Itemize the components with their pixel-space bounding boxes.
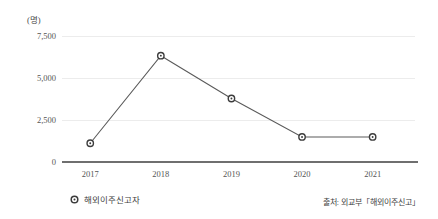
- data-point-marker: [158, 52, 164, 58]
- x-axis-baseline: [62, 161, 418, 163]
- y-axis-tick-label: 5,000: [37, 73, 56, 83]
- data-point-marker: [228, 95, 234, 101]
- data-point-marker: [87, 140, 93, 146]
- source-note: 출처: 외교부「해외이주신고」: [323, 196, 420, 207]
- x-axis-tick-label: 2021: [364, 169, 381, 179]
- x-axis-tick-label: 2017: [82, 169, 99, 179]
- y-axis-tick-label: 0: [52, 157, 56, 167]
- x-axis-tick-label: 2019: [223, 169, 240, 179]
- data-point-marker: [369, 134, 375, 140]
- plot-area: [62, 36, 415, 162]
- legend-label-overseas-migration: 해외이주신고자: [84, 193, 140, 205]
- x-axis-tick-label: 2020: [294, 169, 311, 179]
- circle-marker-icon: [70, 195, 79, 204]
- x-axis-tick-labels: 20172018201920202021: [62, 169, 415, 183]
- legend: 해외이주신고자: [70, 193, 140, 205]
- y-axis-tick-labels: 02,5005,0007,500: [0, 0, 56, 219]
- y-axis-tick-label: 2,500: [37, 115, 56, 125]
- data-point-marker: [299, 134, 305, 140]
- series-line-overseas-migration: [62, 36, 415, 162]
- line-chart: (명) 02,5005,0007,500 2017201820192020202…: [0, 0, 438, 219]
- x-axis-tick-label: 2018: [152, 169, 169, 179]
- y-axis-tick-label: 7,500: [37, 31, 56, 41]
